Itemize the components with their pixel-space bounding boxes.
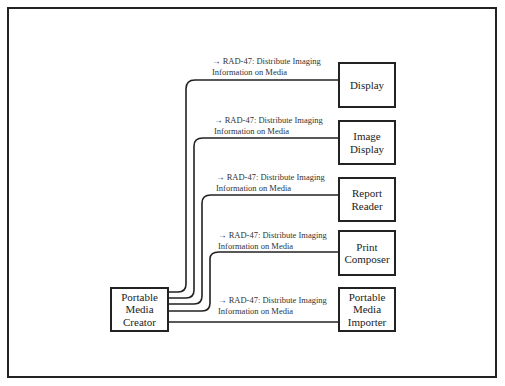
transaction-desc: Information on Media bbox=[218, 306, 327, 317]
transaction-label-report-reader: → RAD-47: Distribute Imaging Information… bbox=[216, 172, 325, 194]
actor-print-composer: Print Composer bbox=[338, 230, 396, 276]
transaction-name: → RAD-47: Distribute Imaging bbox=[218, 230, 327, 241]
transaction-desc: Information on Media bbox=[218, 241, 327, 252]
transaction-label-portable-media-importer: → RAD-47: Distribute Imaging Information… bbox=[218, 295, 327, 317]
diagram-canvas: Portable Media Creator Display Image Dis… bbox=[0, 0, 505, 386]
transaction-desc: Information on Media bbox=[212, 67, 321, 78]
actor-image-display: Image Display bbox=[338, 120, 396, 165]
transaction-name: → RAD-47: Distribute Imaging bbox=[212, 56, 321, 67]
transaction-name: → RAD-47: Distribute Imaging bbox=[216, 172, 325, 183]
actor-portable-media-creator: Portable Media Creator bbox=[110, 287, 169, 332]
transaction-name: → RAD-47: Distribute Imaging bbox=[218, 295, 327, 306]
actor-portable-media-importer: Portable Media Importer bbox=[338, 287, 396, 332]
transaction-desc: Information on Media bbox=[214, 126, 323, 137]
transaction-label-image-display: → RAD-47: Distribute Imaging Information… bbox=[214, 115, 323, 137]
transaction-desc: Information on Media bbox=[216, 183, 325, 194]
actor-display: Display bbox=[338, 62, 396, 108]
transaction-name: → RAD-47: Distribute Imaging bbox=[214, 115, 323, 126]
actor-report-reader: Report Reader bbox=[338, 177, 396, 222]
transaction-label-display: → RAD-47: Distribute Imaging Information… bbox=[212, 56, 321, 78]
transaction-label-print-composer: → RAD-47: Distribute Imaging Information… bbox=[218, 230, 327, 252]
